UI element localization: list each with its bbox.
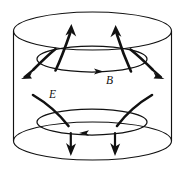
e-curve-upper-outer-right	[131, 50, 153, 70]
e-curve-upper-inner-right	[117, 34, 131, 72]
cylinder-top-rim	[14, 12, 172, 50]
figure-canvas: B E	[0, 0, 185, 172]
em-field-cylinder-figure: B E	[0, 0, 185, 172]
cylinder-body	[14, 12, 172, 160]
upper-electric-field-lines	[21, 24, 165, 79]
cylinder-bottom-rim	[14, 122, 172, 160]
lower-electric-field-lines	[33, 95, 152, 156]
e-curve-upper-inner-left	[56, 33, 71, 71]
magnetic-field-label: B	[106, 74, 113, 86]
electric-field-label: E	[48, 88, 56, 100]
